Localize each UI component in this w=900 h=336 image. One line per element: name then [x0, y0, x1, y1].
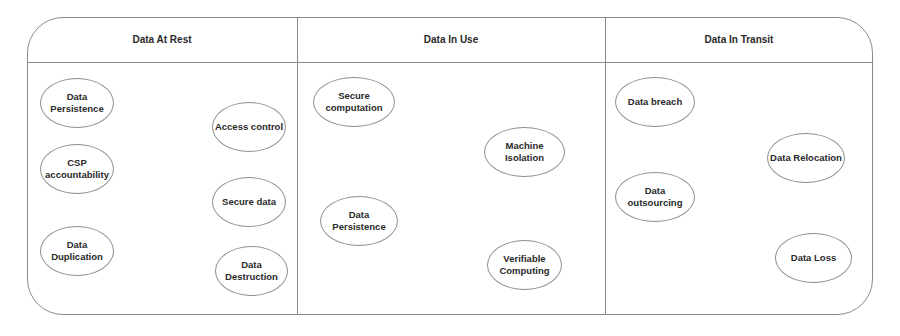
concept-node: Secure data	[212, 177, 286, 227]
concept-node: Data outsourcing	[615, 172, 695, 222]
concept-node: Access control	[212, 102, 286, 152]
header-separator	[27, 62, 873, 63]
column-header-data-in-transit: Data In Transit	[605, 17, 873, 62]
concept-node: Data Duplication	[40, 226, 114, 276]
concept-node: Data Destruction	[215, 246, 288, 296]
concept-node: Verifiable Computing	[487, 240, 562, 290]
concept-node: Data breach	[615, 77, 695, 127]
column-header-data-in-use: Data In Use	[297, 17, 605, 62]
concept-node: CSP accountability	[40, 144, 114, 194]
column-header-data-at-rest: Data At Rest	[27, 17, 297, 62]
concept-node: Data Loss	[775, 233, 852, 283]
concept-node: Data Persistence	[320, 196, 398, 246]
concept-node: Secure computation	[313, 77, 395, 127]
concept-node: Data Persistence	[40, 78, 114, 128]
concept-node: Machine Isolation	[484, 127, 565, 177]
concept-node: Data Relocation	[767, 133, 845, 183]
